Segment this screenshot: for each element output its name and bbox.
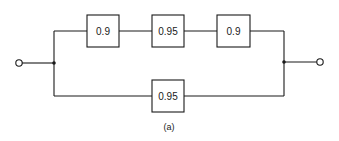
diagram-caption: (a) [164,122,175,132]
top-block-3-label: 0.9 [227,26,241,37]
top-block-1-label: 0.9 [96,26,110,37]
input-terminal [16,60,22,66]
reliability-diagram: 0.9 0.95 0.9 0.95 (a) [0,0,339,141]
top-block-3: 0.9 [217,15,250,47]
top-block-1: 0.9 [87,15,119,47]
bottom-block-1-label: 0.95 [158,91,178,102]
top-block-2: 0.95 [152,15,184,47]
output-terminal [317,59,323,65]
diagram-canvas: 0.9 0.95 0.9 0.95 (a) [0,0,339,141]
bottom-block-1: 0.95 [152,80,184,112]
top-block-2-label: 0.95 [158,26,178,37]
